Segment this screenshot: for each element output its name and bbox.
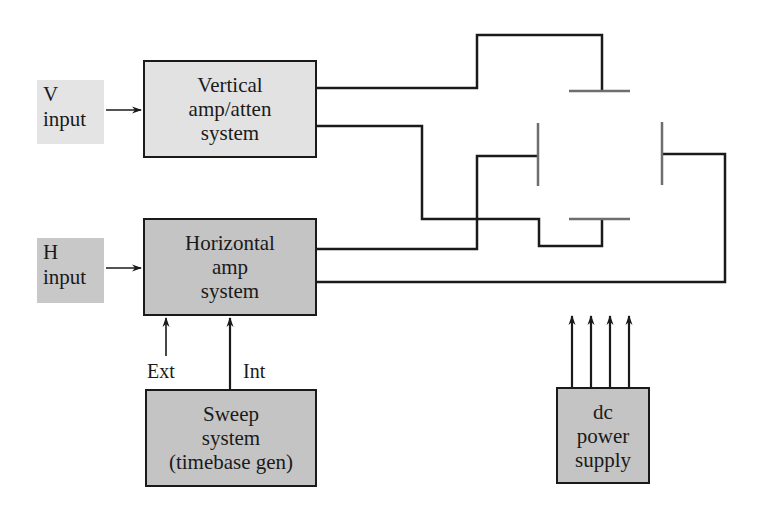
horizontal-line-1: Horizontal bbox=[185, 231, 275, 255]
h-input-line-2: input bbox=[43, 265, 104, 290]
vertical-amp-block: Vertical amp/atten system bbox=[143, 60, 317, 158]
vertical-line-1: Vertical bbox=[197, 73, 262, 97]
sweep-line-2: system bbox=[202, 426, 260, 450]
h-input-label: H input bbox=[37, 238, 104, 303]
v-input-line-1: V bbox=[43, 82, 104, 107]
v-input-line-2: input bbox=[43, 107, 104, 132]
v-input-label: V input bbox=[37, 80, 104, 144]
vertical-to-top-plate-wire bbox=[316, 35, 602, 91]
horizontal-line-2: amp bbox=[212, 255, 248, 279]
ext-label: Ext bbox=[147, 360, 175, 382]
sweep-line-1: Sweep bbox=[203, 402, 259, 426]
vertical-line-3: system bbox=[201, 121, 259, 145]
power-line-3: supply bbox=[575, 448, 631, 472]
vertical-line-2: amp/atten bbox=[189, 97, 272, 121]
int-label: Int bbox=[243, 360, 265, 382]
sweep-system-block: Sweep system (timebase gen) bbox=[145, 389, 317, 487]
horizontal-to-left-plate-wire bbox=[316, 156, 538, 249]
vertical-to-bottom-plate-wire bbox=[316, 126, 602, 246]
horizontal-line-3: system bbox=[201, 279, 259, 303]
horizontal-amp-block: Horizontal amp system bbox=[143, 218, 317, 316]
power-line-2: power bbox=[577, 424, 629, 448]
dc-power-supply-block: dc power supply bbox=[556, 387, 650, 484]
power-line-1: dc bbox=[593, 400, 613, 424]
h-input-line-1: H bbox=[43, 240, 104, 265]
sweep-line-3: (timebase gen) bbox=[169, 450, 293, 474]
